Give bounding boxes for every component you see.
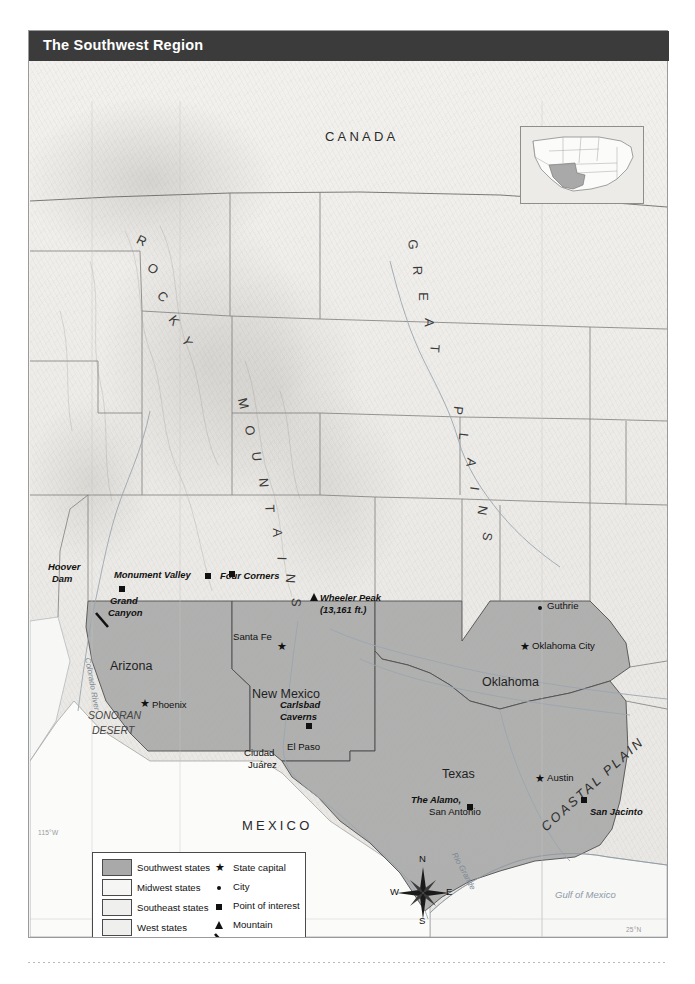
state-capital-marker-santa-fe: ★ [277,641,287,652]
legend-label-state-capital: State capital [233,862,286,873]
city-label-guthrie: Guthrie [547,600,578,611]
legend-swatch-southeast [102,899,132,916]
legend-swatch-west [102,919,132,936]
legend-dot-icon [217,886,221,890]
legend-label-city: City [233,881,250,892]
legend-triangle-icon [215,921,223,929]
poi-label-grand-canyon-line1: Grand [110,595,138,606]
mountain-label-wheeler-elevation: (13,161 ft.) [320,604,366,615]
scale-miles-tick-0: 0 [324,935,329,937]
inset-locator-map [520,126,644,204]
mountain-label-wheeler-peak: Wheeler Peak [320,592,381,603]
legend-label-dam: Dam [233,936,253,937]
city-label-ciudad-juarez-line1: Ciudad [244,747,274,758]
poi-label-the-alamo: The Alamo, [411,794,461,805]
poi-label-monument-valley: Monument Valley [114,569,191,580]
poi-label-carlsbad-line1: Carlsbad [280,699,320,710]
country-label-canada: CANADA [325,129,398,144]
city-label-santa-fe: Santa Fe [233,631,272,642]
state-label-arizona: Arizona [110,659,152,673]
map-legend: Southwest states Midwest states Southeas… [92,852,306,937]
city-label-oklahoma-city: Oklahoma City [532,640,595,651]
mountain-marker-wheeler-peak [310,593,318,601]
city-label-ciudad-juarez-line2: Juárez [248,759,277,770]
map-title-bar: The Southwest Region [29,31,669,61]
state-label-oklahoma: Oklahoma [482,675,539,689]
legend-label-southwest: Southwest states [137,862,210,873]
legend-star-icon: ★ [215,861,225,874]
legend-label-southeast: Southeast states [137,902,208,913]
map-canvas: CANADA MEXICO Gulf of Mexico Rio Grande … [30,61,667,937]
state-capital-marker-austin: ★ [535,773,545,784]
legend-square-icon [216,904,222,910]
city-label-phoenix: Phoenix [152,699,187,710]
physio-label-sonoran-line1: SONORAN [88,709,141,721]
compass-label-north: N [419,853,426,864]
poi-marker-san-jacinto [581,797,587,803]
poi-label-grand-canyon-line2: Canyon [108,607,142,618]
poi-label-four-corners: Four Corners [220,570,279,581]
legend-swatch-midwest [102,879,132,896]
scale-miles-unit: 300 miles [458,935,498,937]
poi-label-hoover-dam-line2: Dam [52,573,72,584]
scale-bar: 0 150 300 miles 0 150 300 kilometers [324,935,514,937]
compass-label-east: E [446,886,452,897]
page-title: The Southwest Region [43,37,203,53]
scale-miles-tick-150: 150 [390,935,406,937]
poi-label-hoover-dam-line1: Hoover [48,561,80,572]
physio-label-sonoran-line2: DESERT [92,724,134,736]
coordinate-label-115w: 115°W [38,829,58,836]
country-label-mexico: MEXICO [242,818,312,833]
compass-label-west: W [390,886,399,897]
compass-label-south: S [419,915,425,926]
map-page: The Southwest Region [0,0,695,984]
map-figure: The Southwest Region [28,30,668,938]
legend-label-point-of-interest: Point of interest [233,900,300,911]
missouri-river [390,261,560,567]
poi-label-carlsbad-line2: Caverns [280,711,317,722]
inset-usa-svg [521,127,643,203]
legend-label-midwest: Midwest states [137,882,200,893]
state-new-mexico [232,601,375,761]
city-label-el-paso: El Paso [287,741,320,752]
legend-dam-icon [213,933,227,937]
coordinate-label-25n: 25°N [626,926,642,933]
city-marker-guthrie [538,606,542,610]
state-capital-marker-phoenix: ★ [140,698,150,709]
poi-marker-grand-canyon [119,586,125,592]
legend-label-mountain: Mountain [233,919,272,930]
poi-marker-the-alamo [467,804,473,810]
legend-label-west: West states [137,922,187,933]
legend-swatch-southwest [102,859,132,876]
state-label-texas: Texas [442,767,475,781]
state-capital-marker-oklahoma-city: ★ [520,641,530,652]
poi-marker-monument-valley [205,573,211,579]
city-label-austin: Austin [547,772,574,783]
water-label-gulf-of-mexico: Gulf of Mexico [555,889,616,900]
page-divider [28,962,668,963]
poi-marker-carlsbad-caverns [306,723,312,729]
poi-label-san-jacinto: San Jacinto [590,806,643,817]
compass-rose: N S E W [388,856,458,930]
